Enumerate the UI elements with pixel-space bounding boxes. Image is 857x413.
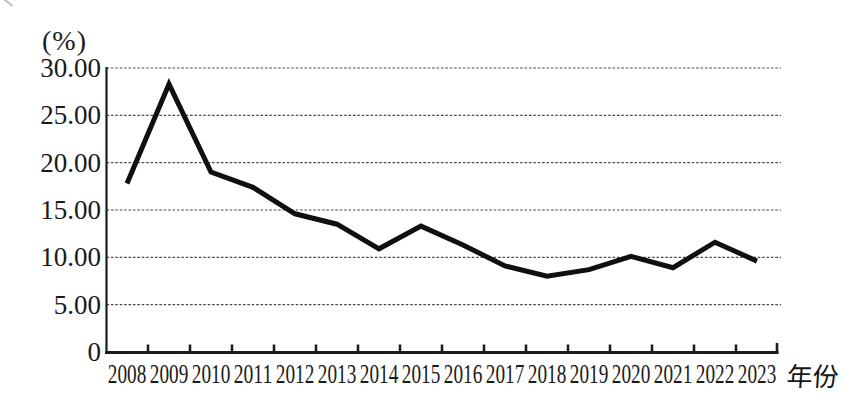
x-tick-label: 2021 — [654, 358, 693, 389]
y-tick-label: 15.00 — [40, 195, 101, 225]
data-series-line — [127, 84, 757, 276]
x-tick-label: 2015 — [402, 358, 441, 389]
y-tick-label: 20.00 — [40, 148, 101, 178]
y-tick-label: 0 — [88, 337, 102, 367]
x-tick-label: 2012 — [276, 358, 315, 389]
y-tick-label: 30.00 — [40, 53, 101, 83]
x-axis-title: 年份 — [786, 356, 841, 393]
x-tick-label: 2008 — [108, 358, 147, 389]
x-tick-label: 2020 — [612, 358, 651, 389]
y-tick-label: 25.00 — [40, 100, 101, 130]
y-tick-label: 5.00 — [54, 290, 101, 320]
x-tick-label: 2013 — [318, 358, 357, 389]
x-tick-label: 2022 — [696, 358, 735, 389]
x-tick-label: 2010 — [192, 358, 231, 389]
x-tick-label: 2009 — [150, 358, 189, 389]
x-tick-label: 2016 — [444, 358, 483, 389]
line-chart-canvas: 05.0010.0015.0020.0025.0030.002008200920… — [0, 0, 857, 413]
x-tick-label: 2018 — [528, 358, 567, 389]
x-tick-label: 2023 — [738, 358, 777, 389]
chart-figure: (%) 05.0010.0015.0020.0025.0030.00200820… — [0, 0, 857, 413]
x-tick-label: 2011 — [234, 358, 273, 389]
y-tick-label: 10.00 — [40, 242, 101, 272]
x-tick-label: 2014 — [360, 358, 399, 389]
y-axis-unit-label: (%) — [42, 25, 87, 57]
x-tick-label: 2017 — [486, 358, 525, 389]
x-tick-label: 2019 — [570, 358, 609, 389]
